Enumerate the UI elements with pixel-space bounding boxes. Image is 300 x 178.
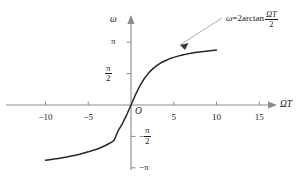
y-tick-fraction: π2 bbox=[144, 126, 151, 146]
equation-numerator: ΩT bbox=[265, 10, 278, 19]
x-tick-label: 10 bbox=[209, 113, 225, 122]
y-tick-fraction: π2 bbox=[105, 64, 112, 84]
y-tick-label: −π2 bbox=[139, 126, 151, 146]
y-axis-label: ω bbox=[110, 15, 117, 25]
annotation-leader-line bbox=[180, 18, 222, 45]
curve-equation-label: ω=2arctanΩT2 bbox=[226, 10, 278, 29]
x-axis-arrowhead bbox=[268, 101, 277, 108]
y-axis-arrowhead bbox=[127, 15, 134, 24]
y-tick-numerator: π bbox=[144, 126, 151, 135]
y-tick-denominator: 2 bbox=[105, 73, 112, 83]
y-tick-label: π2 bbox=[105, 64, 112, 84]
equation-denominator: 2 bbox=[265, 19, 278, 29]
equation-fraction: ΩT2 bbox=[265, 10, 278, 29]
x-axis-label: ΩT bbox=[280, 100, 292, 110]
figure-container: ω ΩT O −10−551015 ππ2−π2−π ω=2arctanΩT2 bbox=[0, 0, 300, 178]
x-tick-label: −5 bbox=[80, 113, 96, 122]
equation-body: =2arctan bbox=[232, 13, 264, 23]
y-tick-numerator: π bbox=[105, 64, 112, 73]
y-tick-denominator: 2 bbox=[144, 136, 151, 146]
y-tick-label: π bbox=[111, 37, 116, 46]
origin-label: O bbox=[135, 107, 142, 117]
y-tick-label: −π bbox=[139, 163, 149, 172]
x-tick-label: −10 bbox=[38, 113, 54, 122]
x-tick-label: 5 bbox=[166, 113, 182, 122]
x-tick-label: 15 bbox=[251, 113, 267, 122]
